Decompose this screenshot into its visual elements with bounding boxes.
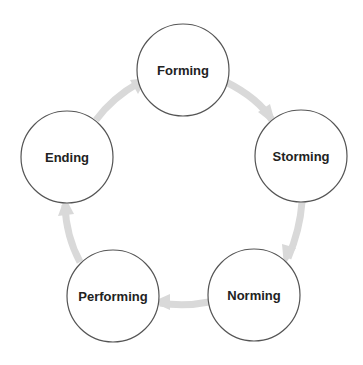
stage-label: Norming <box>227 288 281 303</box>
stage-forming: Forming <box>137 24 229 116</box>
cycle-diagram: Forming Storming Norming Performing Endi… <box>0 0 363 365</box>
stage-label: Ending <box>45 150 89 165</box>
stage-label: Performing <box>78 289 147 304</box>
stage-norming: Norming <box>208 249 300 341</box>
arrow-ending-to-forming <box>96 82 140 120</box>
stage-ending: Ending <box>21 111 113 203</box>
stage-label: Forming <box>157 63 209 78</box>
stage-label: Storming <box>272 149 329 164</box>
stage-storming: Storming <box>255 110 347 202</box>
stage-performing: Performing <box>67 250 159 342</box>
